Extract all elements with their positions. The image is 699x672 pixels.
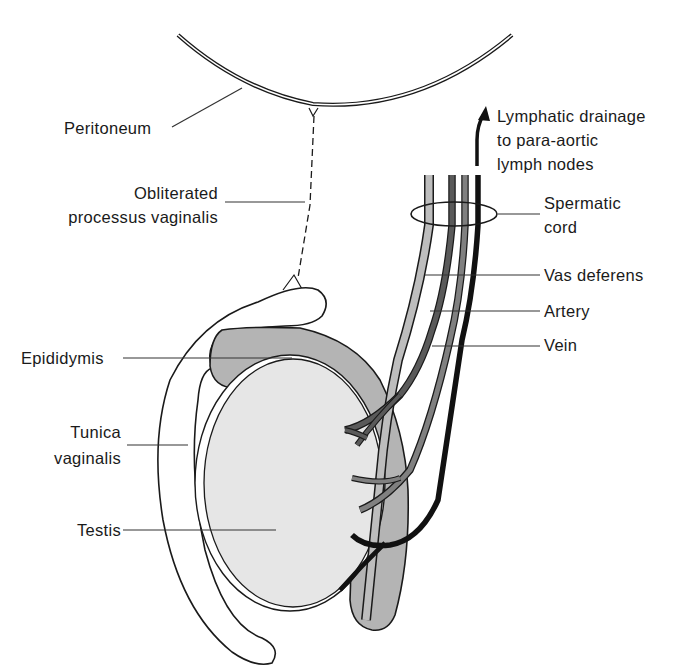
peritoneum bbox=[178, 35, 512, 105]
label-tunica-line1: Tunica bbox=[70, 423, 121, 441]
testis-anatomy-diagram: Peritoneum Obliterated processus vaginal… bbox=[0, 0, 699, 672]
label-lymph-line1: Lymphatic drainage bbox=[497, 107, 646, 125]
label-testis: Testis bbox=[77, 521, 121, 539]
lymphatic-arrow-icon bbox=[477, 106, 490, 166]
label-vein: Vein bbox=[544, 336, 577, 354]
label-spermatic-line1: Spermatic bbox=[544, 194, 621, 212]
label-processus-line1: Obliterated bbox=[134, 184, 218, 202]
label-epididymis: Epididymis bbox=[21, 349, 104, 367]
label-vas-deferens: Vas deferens bbox=[544, 266, 644, 284]
label-lymph-line2: to para-aortic bbox=[497, 131, 598, 149]
label-tunica-line2: vaginalis bbox=[54, 449, 121, 467]
label-lymph-line3: lymph nodes bbox=[497, 155, 594, 173]
label-processus-line2: processus vaginalis bbox=[68, 208, 218, 226]
label-peritoneum: Peritoneum bbox=[64, 119, 151, 137]
processus-vaginalis bbox=[283, 108, 318, 290]
label-spermatic-line2: cord bbox=[544, 218, 577, 236]
label-artery: Artery bbox=[544, 302, 590, 320]
